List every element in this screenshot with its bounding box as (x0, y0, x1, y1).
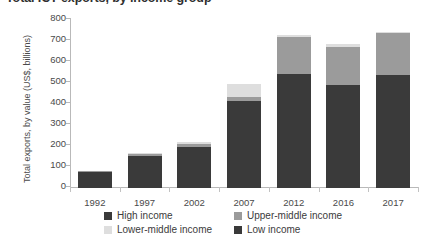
legend-swatch-high-income (104, 212, 112, 220)
x-tick (169, 187, 170, 192)
y-tick (66, 81, 71, 82)
bar-2017[interactable] (376, 32, 410, 188)
y-tick-label: 200 (26, 139, 66, 148)
bar-segment (326, 47, 360, 85)
legend-row-2: Lower-middle income Low income (104, 224, 404, 235)
y-tick-label: 100 (26, 160, 66, 169)
chart-title: Total ICT exports, by income group (6, 0, 211, 5)
legend-item-high-income: High income (104, 210, 234, 221)
x-tick (418, 187, 419, 192)
y-tick (66, 123, 71, 124)
bar-1997[interactable] (128, 153, 162, 188)
y-tick-label: 700 (26, 34, 66, 43)
bar-segment (128, 156, 162, 188)
bar-segment (277, 74, 311, 188)
x-tick (368, 187, 369, 192)
legend-label-high-income: High income (117, 210, 173, 221)
y-tick (66, 60, 71, 61)
bar-segment (78, 172, 112, 188)
y-tick-label: 400 (26, 97, 66, 106)
legend-swatch-low-income (234, 226, 242, 234)
x-tick (269, 187, 270, 192)
plot-area: 0100200300400500600700800 19921997200220… (70, 16, 418, 188)
y-tick (66, 18, 71, 19)
bar-segment (227, 101, 261, 188)
bar-2016[interactable] (326, 44, 360, 188)
legend-swatch-lower-middle-income (104, 226, 112, 234)
legend-label-upper-middle-income: Upper-middle income (247, 210, 342, 221)
bar-segment (177, 147, 211, 188)
x-tick (120, 187, 121, 192)
y-tick-label: 300 (26, 118, 66, 127)
x-tick (319, 187, 320, 192)
y-tick (66, 102, 71, 103)
y-tick-label: 800 (26, 13, 66, 22)
x-tick (70, 187, 71, 192)
bar-1992[interactable] (78, 171, 112, 188)
bar-2012[interactable] (277, 35, 311, 188)
legend-item-upper-middle-income: Upper-middle income (234, 210, 342, 221)
y-tick-label: 600 (26, 55, 66, 64)
legend-item-lower-middle-income: Lower-middle income (104, 224, 234, 235)
y-tick-label: 500 (26, 76, 66, 85)
legend-row-1: High income Upper-middle income (104, 210, 404, 221)
bar-segment (326, 85, 360, 188)
y-tick (66, 39, 71, 40)
x-tick-label: 2017 (363, 197, 423, 208)
y-tick (66, 165, 71, 166)
x-tick (219, 187, 220, 192)
legend-label-low-income: Low income (247, 224, 300, 235)
bar-2007[interactable] (227, 84, 261, 188)
y-tick-label: 0 (26, 181, 66, 190)
y-tick (66, 144, 71, 145)
bar-segment (376, 33, 410, 75)
legend-label-lower-middle-income: Lower-middle income (117, 224, 212, 235)
legend-item-low-income: Low income (234, 224, 300, 235)
bar-segment (227, 84, 261, 97)
chart-page: Total ICT exports, by income group Total… (0, 0, 426, 244)
bar-segment (277, 37, 311, 73)
legend-swatch-upper-middle-income (234, 212, 242, 220)
bar-segment (376, 75, 410, 188)
chart-legend: High income Upper-middle income Lower-mi… (104, 210, 404, 238)
bar-2002[interactable] (177, 142, 211, 188)
